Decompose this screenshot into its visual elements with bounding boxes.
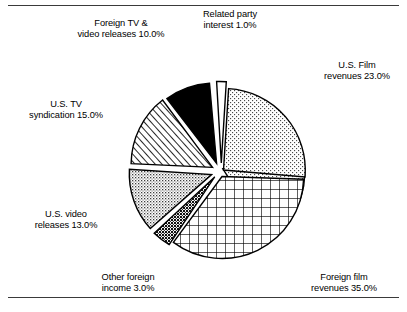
slice-label-line2: video releases 10.0% <box>56 29 186 40</box>
slice-label-line1: Related party <box>176 9 284 20</box>
pie-chart: Foreign TV & video releases 10.0% Relate… <box>0 0 407 312</box>
slice-label-line1: U.S. video <box>12 209 120 220</box>
slice-label-line2: revenues 23.0% <box>312 71 402 82</box>
slice-label-line1: Foreign TV & <box>56 18 186 29</box>
slice-label-related-party-interest: Related party interest 1.0% <box>176 9 284 32</box>
slice-label-line1: U.S. Film <box>312 60 402 71</box>
slice-label-line1: U.S. TV <box>14 99 118 110</box>
pie-chart-svg <box>0 0 407 312</box>
slice-label-line1: Other foreign <box>76 272 180 283</box>
pie-slice-us-film-revenues-shape <box>224 89 306 177</box>
slice-label-foreign-tv-video-releases: Foreign TV & video releases 10.0% <box>56 18 186 41</box>
slice-label-line2: releases 13.0% <box>12 220 120 231</box>
slice-label-us-film-revenues: U.S. Film revenues 23.0% <box>312 60 402 83</box>
slice-label-other-foreign-income: Other foreign income 3.0% <box>76 272 180 295</box>
slice-label-line2: syndication 15.0% <box>14 110 118 121</box>
slice-label-line2: income 3.0% <box>76 283 180 294</box>
pie-slices <box>129 81 305 258</box>
slice-label-line2: revenues 35.0% <box>288 283 400 294</box>
chart-page: Foreign TV & video releases 10.0% Relate… <box>0 0 407 312</box>
slice-label-foreign-film-revenues: Foreign film revenues 35.0% <box>288 272 400 295</box>
slice-label-line1: Foreign film <box>288 272 400 283</box>
slice-label-us-video-releases: U.S. video releases 13.0% <box>12 209 120 232</box>
slice-label-line2: interest 1.0% <box>176 20 284 31</box>
slice-label-us-tv-syndication: U.S. TV syndication 15.0% <box>14 99 118 122</box>
